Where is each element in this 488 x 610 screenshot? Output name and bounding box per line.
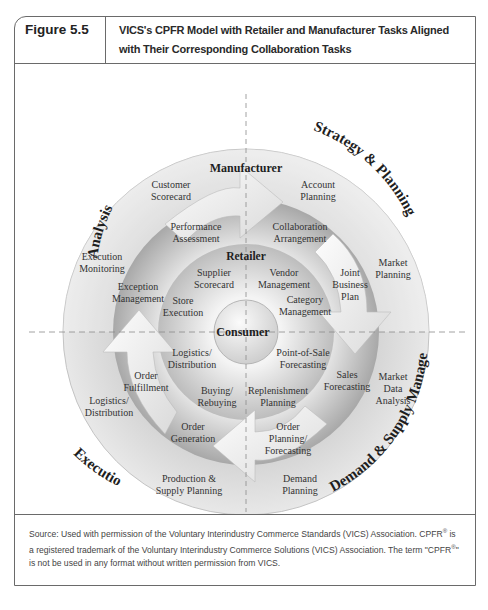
task-production-supply-planning: Production &Supply Planning (156, 473, 222, 496)
task-performance-assessment: PerformanceAssessment (170, 221, 222, 244)
task-logistics-distribution-inner: Logistics/Distribution (168, 347, 216, 370)
figure-number: Figure 5.5 (15, 17, 106, 63)
task-market-planning: MarketPlanning (375, 257, 411, 280)
figure-frame: Figure 5.5 VICS's CPFR Model with Retail… (14, 16, 476, 586)
manufacturer-label: Manufacturer (210, 161, 283, 175)
retailer-label: Retailer (226, 250, 266, 262)
figure-title: VICS's CPFR Model with Retailer and Manu… (119, 21, 471, 59)
consumer-label: Consumer (216, 325, 270, 339)
task-logistics-distribution-outer: Logistics/Distribution (85, 395, 133, 418)
task-execution-monitoring: ExecutionMonitoring (79, 251, 125, 274)
task-supplier-scorecard: SupplierScorecard (194, 267, 234, 290)
task-account-planning: AccountPlanning (300, 179, 336, 202)
task-exception-management: ExceptionManagement (112, 281, 164, 304)
task-customer-scorecard: CustomerScorecard (151, 179, 191, 202)
task-buying-rebuying: Buying/Rebuying (198, 385, 237, 408)
task-pos-forecasting: Point-of-SaleForecasting (276, 347, 330, 370)
task-collaboration-arrangement: CollaborationArrangement (273, 221, 328, 244)
cpfr-diagram: Analysis Strategy & Planning Demand & Su… (15, 64, 475, 514)
task-demand-planning: DemandPlanning (282, 473, 318, 496)
figure-header: Figure 5.5 VICS's CPFR Model with Retail… (15, 17, 475, 64)
source-note: Source: Used with permission of the Volu… (15, 514, 475, 586)
